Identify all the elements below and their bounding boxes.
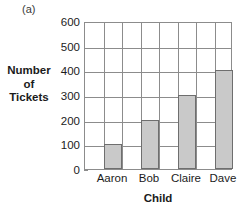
x-axis-title: Child <box>84 192 232 204</box>
panel-label: (a) <box>22 3 35 15</box>
plot-area <box>84 22 232 170</box>
gridline-500 <box>85 48 231 49</box>
vertical-gridline-4 <box>159 23 160 169</box>
bar-bob[interactable] <box>141 120 160 169</box>
y-tick-label-400: 400 <box>46 66 80 77</box>
vertical-gridline-2 <box>122 23 123 169</box>
y-tick-mark-0 <box>84 170 88 171</box>
y-tick-label-100: 100 <box>46 140 80 151</box>
bar-claire[interactable] <box>178 95 197 169</box>
bar-dave[interactable] <box>215 70 234 169</box>
x-axis-tick-labels: Aaron Bob Claire Dave <box>84 172 232 188</box>
y-tick-label-500: 500 <box>46 42 80 53</box>
bar-aaron[interactable] <box>104 144 123 169</box>
y-tick-label-600: 600 <box>46 17 80 28</box>
gridline-300 <box>85 97 231 98</box>
vertical-gridline-6 <box>196 23 197 169</box>
x-tick-label-dave: Dave <box>193 172 245 184</box>
bar-chart-screenshot: (a) Number of Tickets 600 500 400 300 20… <box>0 0 245 214</box>
y-tick-label-0: 0 <box>46 165 80 176</box>
y-tick-label-300: 300 <box>46 91 80 102</box>
y-tick-label-200: 200 <box>46 116 80 127</box>
gridline-400 <box>85 72 231 73</box>
y-axis-tick-labels: 600 500 400 300 200 100 0 <box>44 22 80 170</box>
